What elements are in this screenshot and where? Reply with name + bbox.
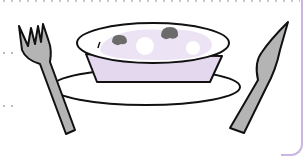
- place-setting-illustration: [0, 0, 304, 156]
- illustration-card: [0, 0, 304, 156]
- knife-icon: [230, 22, 288, 133]
